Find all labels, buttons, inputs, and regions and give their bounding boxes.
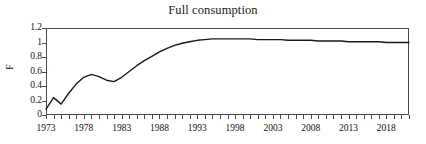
x-tick-mark (91, 115, 92, 119)
y-tick-label: 0.4 (16, 81, 42, 91)
x-tick-mark (182, 115, 183, 119)
x-tick-mark (401, 115, 402, 119)
x-tick-mark (349, 115, 350, 119)
x-tick-mark (84, 115, 85, 119)
x-tick-mark (228, 115, 229, 119)
x-tick-label: 2013 (329, 123, 369, 134)
y-tick-label: 1 (16, 38, 42, 48)
x-tick-mark (99, 115, 100, 119)
x-tick-mark (190, 115, 191, 119)
x-tick-mark (129, 115, 130, 119)
x-tick-mark (303, 115, 304, 119)
x-tick-label: 2018 (366, 123, 406, 134)
x-tick-mark (311, 115, 312, 119)
x-tick-mark (159, 115, 160, 119)
chart-title: Full consumption (0, 3, 426, 17)
x-tick-mark (144, 115, 145, 119)
y-tick-label: 0.8 (16, 52, 42, 62)
x-tick-mark (250, 115, 251, 119)
y-axis-title: F (5, 55, 15, 79)
x-tick-mark (235, 115, 236, 119)
y-tick-label: 0 (16, 110, 42, 120)
x-tick-mark (273, 115, 274, 119)
x-tick-mark (409, 115, 410, 119)
x-tick-mark (265, 115, 266, 119)
x-tick-mark (288, 115, 289, 119)
x-tick-label: 1978 (64, 123, 104, 134)
x-tick-mark (341, 115, 342, 119)
x-tick-mark (197, 115, 198, 119)
x-tick-mark (76, 115, 77, 119)
x-tick-mark (394, 115, 395, 119)
x-tick-mark (69, 115, 70, 119)
y-tick-label: 0.2 (16, 96, 42, 106)
x-tick-mark (175, 115, 176, 119)
x-tick-mark (137, 115, 138, 119)
x-tick-mark (205, 115, 206, 119)
x-tick-mark (114, 115, 115, 119)
x-tick-mark (280, 115, 281, 119)
x-tick-mark (333, 115, 334, 119)
x-tick-label: 1993 (177, 123, 217, 134)
x-tick-mark (243, 115, 244, 119)
x-tick-label: 1973 (26, 123, 66, 134)
x-tick-label: 2003 (253, 123, 293, 134)
x-tick-mark (212, 115, 213, 119)
x-tick-mark (220, 115, 221, 119)
chart-figure: Full consumption 1.210.80.60.40.20 F 197… (0, 0, 426, 144)
x-tick-mark (326, 115, 327, 119)
y-tick-label: 0.6 (16, 67, 42, 77)
x-tick-mark (167, 115, 168, 119)
x-tick-mark (258, 115, 259, 119)
x-tick-mark (356, 115, 357, 119)
x-tick-mark (386, 115, 387, 119)
x-tick-mark (371, 115, 372, 119)
x-tick-label: 2008 (291, 123, 331, 134)
x-tick-mark (152, 115, 153, 119)
x-tick-label: 1998 (215, 123, 255, 134)
x-tick-label: 1983 (102, 123, 142, 134)
x-tick-mark (296, 115, 297, 119)
x-tick-mark (379, 115, 380, 119)
x-tick-mark (122, 115, 123, 119)
x-tick-mark (318, 115, 319, 119)
series-line-f (46, 28, 409, 115)
x-tick-mark (364, 115, 365, 119)
y-tick-label: 1.2 (16, 23, 42, 33)
x-tick-mark (107, 115, 108, 119)
x-tick-mark (46, 115, 47, 119)
x-tick-mark (61, 115, 62, 119)
x-tick-label: 1988 (139, 123, 179, 134)
x-tick-mark (54, 115, 55, 119)
